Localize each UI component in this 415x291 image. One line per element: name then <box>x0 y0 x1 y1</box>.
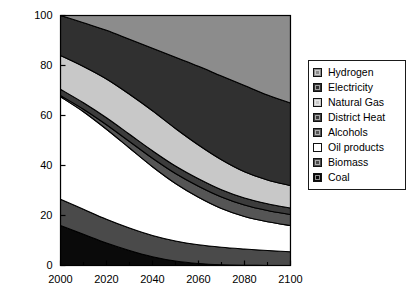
x-tick-label: 2040 <box>133 274 173 285</box>
y-tick-label: 0 <box>25 260 53 271</box>
legend-label: Alcohols <box>328 127 368 138</box>
x-tick-label: 2100 <box>271 274 311 285</box>
legend-swatch-icon <box>313 83 322 92</box>
legend-item[interactable]: Natural Gas <box>313 95 402 110</box>
chart-legend: HydrogenElectricityNatural GasDistrict H… <box>308 60 406 190</box>
x-tick-label: 2080 <box>225 274 265 285</box>
legend-label: Electricity <box>328 82 373 93</box>
legend-label: District Heat <box>328 112 385 123</box>
legend-item[interactable]: Hydrogen <box>313 65 402 80</box>
x-tick-label: 2000 <box>41 274 81 285</box>
legend-swatch-icon <box>313 158 322 167</box>
legend-item[interactable]: Biomass <box>313 155 402 170</box>
legend-item[interactable]: Alcohols <box>313 125 402 140</box>
y-tick-label: 40 <box>25 160 53 171</box>
x-tick-label: 2060 <box>179 274 219 285</box>
legend-item[interactable]: District Heat <box>313 110 402 125</box>
legend-item[interactable]: Coal <box>313 170 402 185</box>
legend-swatch-icon <box>313 143 322 152</box>
x-tick-label: 2020 <box>87 274 127 285</box>
y-tick-label: 20 <box>25 210 53 221</box>
y-tick-label: 60 <box>25 110 53 121</box>
legend-swatch-icon <box>313 98 322 107</box>
legend-label: Oil products <box>328 142 384 153</box>
legend-label: Biomass <box>328 157 368 168</box>
legend-item[interactable]: Electricity <box>313 80 402 95</box>
legend-swatch-icon <box>313 128 322 137</box>
legend-label: Natural Gas <box>328 97 384 108</box>
legend-label: Hydrogen <box>328 67 374 78</box>
chart-figure: Global Final Energy Share (%) 0204060801… <box>0 0 415 291</box>
legend-swatch-icon <box>313 68 322 77</box>
y-tick-label: 80 <box>25 60 53 71</box>
y-tick-label: 100 <box>25 10 53 21</box>
legend-swatch-icon <box>313 113 322 122</box>
legend-label: Coal <box>328 172 350 183</box>
legend-swatch-icon <box>313 173 322 182</box>
legend-item[interactable]: Oil products <box>313 140 402 155</box>
